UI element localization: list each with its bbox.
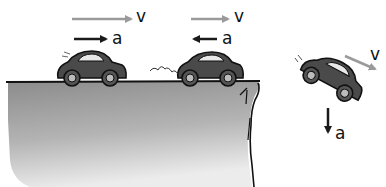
physics-illustration: v a v a v a bbox=[0, 0, 386, 187]
cliff bbox=[6, 81, 260, 187]
acceleration-label-3: a bbox=[335, 125, 345, 142]
acceleration-label-1: a bbox=[112, 30, 122, 47]
velocity-label-3: v bbox=[370, 46, 380, 63]
acceleration-label-2: a bbox=[222, 30, 232, 47]
car-falling bbox=[297, 47, 371, 108]
velocity-label-1: v bbox=[136, 8, 146, 25]
illustration-canvas bbox=[0, 0, 386, 187]
dust-puff bbox=[150, 67, 178, 74]
velocity-label-2: v bbox=[234, 8, 244, 25]
